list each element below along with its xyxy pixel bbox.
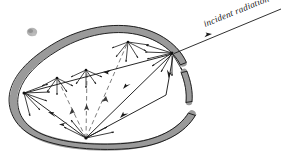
page-smudge xyxy=(27,28,37,36)
top-scatter-point-dot xyxy=(127,41,130,44)
dashed-rays xyxy=(58,44,127,138)
left-wall-reflection-point-dot xyxy=(23,92,26,95)
solid-ray-arrowheads xyxy=(48,70,172,127)
solid-rays xyxy=(25,54,173,138)
upper-left-scatter-point-b-dot xyxy=(85,69,88,72)
ray-entry-to-left-wall xyxy=(25,54,172,93)
left-wall-reflection-point xyxy=(24,84,50,116)
ray-entry-to-bottom xyxy=(87,54,172,137)
upper-left-scatter-point-a-dot xyxy=(56,77,59,80)
dashed-ray-bottom-to-top-scatter xyxy=(86,44,127,138)
cavity-radiation-figure: incident radiation xyxy=(0,0,286,155)
dashed-ray-arrowheads xyxy=(69,96,108,115)
entry-reflection-point-dot xyxy=(171,52,174,55)
bottom-wall-reflection-point-dot xyxy=(84,136,87,139)
cavity-diagram-svg: incident radiation xyxy=(0,0,286,155)
incident-radiation-label: incident radiation xyxy=(202,0,271,29)
top-scatter-point xyxy=(112,42,149,62)
